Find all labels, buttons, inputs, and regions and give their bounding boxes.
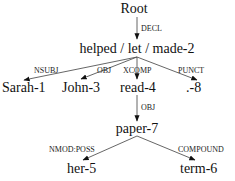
label-xcomp: XCOMP: [123, 66, 152, 75]
label-decl: DECL: [141, 24, 162, 33]
node-read: read-4: [120, 80, 156, 95]
label-compound: COMPOUND: [178, 145, 224, 154]
edges: [24, 17, 197, 160]
label-obj-paper: OBJ: [141, 103, 155, 112]
node-sarah: Sarah-1: [2, 80, 46, 95]
node-punct: .-8: [186, 80, 201, 95]
label-nsubj: NSUBJ: [34, 66, 58, 75]
node-helped-let-made: helped / let / made-2: [79, 41, 194, 56]
node-root: Root: [120, 1, 147, 16]
node-paper: paper-7: [116, 121, 158, 136]
node-john: John-3: [62, 80, 100, 95]
label-obj-john: OBJ: [97, 66, 111, 75]
label-nmod-poss: NMOD:POSS: [49, 145, 95, 154]
label-punct: PUNCT: [178, 66, 204, 75]
node-her: her-5: [67, 161, 96, 176]
node-term: term-6: [180, 161, 217, 176]
dependency-tree-diagram: DECL NSUBJ OBJ XCOMP PUNCT OBJ NMOD:POSS…: [0, 0, 235, 181]
